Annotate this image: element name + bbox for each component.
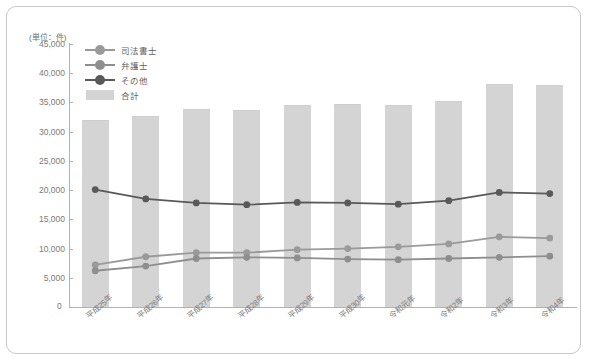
- point-弁護士-令和2年: [445, 255, 452, 262]
- legend-label: 合計: [121, 89, 139, 101]
- legend-label: 司法書士: [121, 44, 157, 56]
- legend-marker-icon: [85, 44, 115, 56]
- point-司法書士-平成30年: [344, 245, 351, 252]
- point-その他-令和元年: [395, 201, 402, 208]
- point-その他-平成27年: [193, 200, 200, 207]
- point-その他-平成25年: [92, 186, 99, 193]
- point-弁護士-平成29年: [294, 255, 301, 262]
- legend-item-司法書士[interactable]: 司法書士: [85, 43, 195, 57]
- point-弁護士-平成28年: [243, 254, 250, 261]
- y-tick-label: 40,000: [39, 68, 65, 78]
- point-司法書士-令和3年: [496, 233, 503, 240]
- point-その他-令和3年: [496, 189, 503, 196]
- point-弁護士-令和4年: [546, 253, 553, 260]
- point-弁護士-令和3年: [496, 254, 503, 261]
- y-tick-label: 35,000: [39, 97, 65, 107]
- legend-item-弁護士[interactable]: 弁護士: [85, 58, 195, 72]
- line-弁護士: [95, 256, 550, 271]
- point-司法書士-平成29年: [294, 246, 301, 253]
- legend-item-合計[interactable]: 合計: [85, 88, 195, 102]
- point-その他-平成26年: [142, 195, 149, 202]
- chart-legend: 司法書士弁護士その他合計: [85, 43, 195, 103]
- point-司法書士-平成27年: [193, 249, 200, 256]
- point-その他-平成29年: [294, 199, 301, 206]
- point-弁護士-平成27年: [193, 255, 200, 262]
- y-tick-label: 25,000: [39, 156, 65, 166]
- line-その他: [95, 190, 550, 205]
- y-tick-label: 5,000: [44, 273, 65, 283]
- point-弁護士-平成26年: [142, 263, 149, 270]
- legend-marker-icon: [85, 74, 115, 86]
- y-tick-label: 30,000: [39, 127, 65, 137]
- point-司法書士-平成26年: [142, 253, 149, 260]
- point-弁護士-平成25年: [92, 267, 99, 274]
- legend-marker-icon: [85, 89, 115, 101]
- y-tick-label: 10,000: [39, 244, 65, 254]
- y-tick-label: 45,000: [39, 39, 65, 49]
- point-司法書士-令和2年: [445, 240, 452, 247]
- point-弁護士-平成30年: [344, 256, 351, 263]
- line-司法書士: [95, 237, 550, 265]
- y-tick-label: 20,000: [39, 185, 65, 195]
- point-その他-平成28年: [243, 201, 250, 208]
- point-弁護士-令和元年: [395, 256, 402, 263]
- x-axis-zero-label: 0: [57, 301, 62, 311]
- point-司法書士-令和元年: [395, 243, 402, 250]
- point-司法書士-平成25年: [92, 262, 99, 269]
- point-その他-令和2年: [445, 197, 452, 204]
- legend-marker-icon: [85, 59, 115, 71]
- legend-label: その他: [121, 74, 148, 86]
- legend-item-その他[interactable]: その他: [85, 73, 195, 87]
- point-その他-令和4年: [546, 190, 553, 197]
- chart-frame: (単位：件) 45,00040,00035,00030,00025,00020,…: [6, 6, 581, 354]
- point-司法書士-令和4年: [546, 235, 553, 242]
- legend-label: 弁護士: [121, 59, 148, 71]
- point-その他-平成30年: [344, 200, 351, 207]
- y-tick-label: 15,000: [39, 214, 65, 224]
